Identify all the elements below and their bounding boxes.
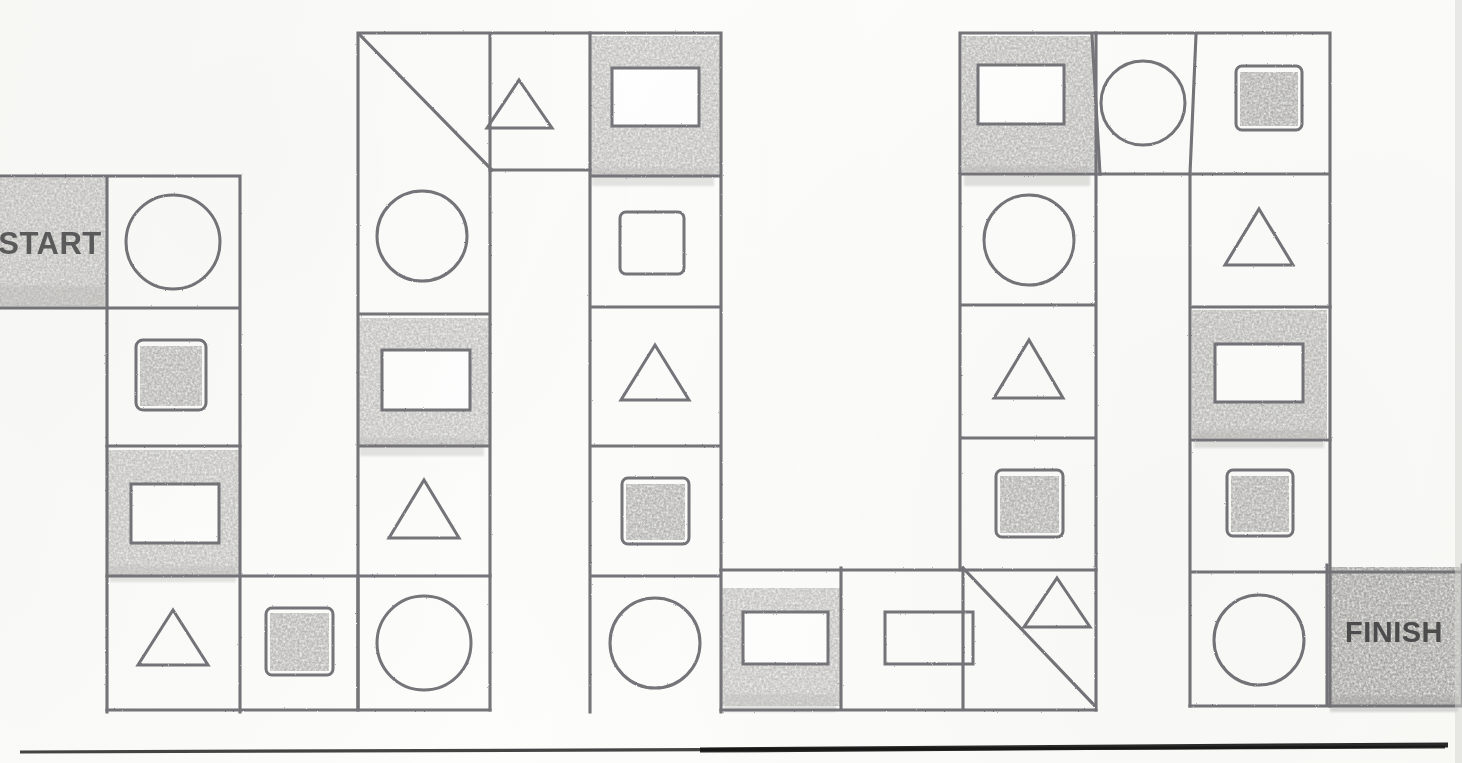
shape-triangle-8 <box>389 480 459 538</box>
grid-col2-diagonal <box>360 35 492 170</box>
shape-circle-23 <box>984 195 1074 285</box>
shape-rect-28 <box>1215 344 1303 402</box>
shape-circle-30 <box>1214 595 1304 685</box>
page-edge-shadow <box>1455 0 1462 763</box>
smudge-24 <box>964 166 1090 186</box>
shape-rect-19 <box>885 612 973 664</box>
shape-circle-11 <box>377 191 467 281</box>
board-game-diagram: START FINISH <box>0 0 1462 763</box>
smudge-start <box>0 286 104 308</box>
fill-sq-6 <box>270 613 329 671</box>
shape-triangle-27 <box>1225 209 1293 265</box>
shape-triangle-12 <box>487 80 552 128</box>
grid-bottom-center-diagonal <box>963 568 1095 706</box>
grid-topright-slant-25 <box>1190 35 1196 174</box>
shape-triangle-5 <box>138 610 208 665</box>
page-bottom-rule <box>20 745 1448 752</box>
shape-circle-25 <box>1101 61 1185 145</box>
shape-rect-9 <box>382 350 470 410</box>
shape-triangle-20 <box>1024 578 1090 627</box>
shape-rect-4 <box>131 484 219 543</box>
start-label: START <box>0 226 102 261</box>
shape-circle-2 <box>126 195 220 289</box>
shape-square-14 <box>620 212 684 274</box>
fill-sq-3 <box>140 346 202 406</box>
fill-sq-26 <box>1240 72 1298 126</box>
shape-triangle-22 <box>994 340 1063 398</box>
smudge-finish <box>1330 696 1458 712</box>
shape-circle-7 <box>377 596 471 690</box>
board-canvas: START FINISH <box>0 0 1462 763</box>
smudge-4 <box>110 566 236 582</box>
shape-rect-24 <box>978 65 1064 124</box>
shape-triangle-15 <box>621 345 689 400</box>
fill-sq-16 <box>626 484 685 540</box>
shape-rect-13 <box>612 68 699 126</box>
shape-rect-18 <box>743 612 828 664</box>
fill-sq-21 <box>1000 476 1059 533</box>
finish-label: FINISH <box>1345 616 1443 648</box>
fill-sq-29 <box>1231 476 1289 532</box>
shape-circle-17 <box>610 598 700 688</box>
